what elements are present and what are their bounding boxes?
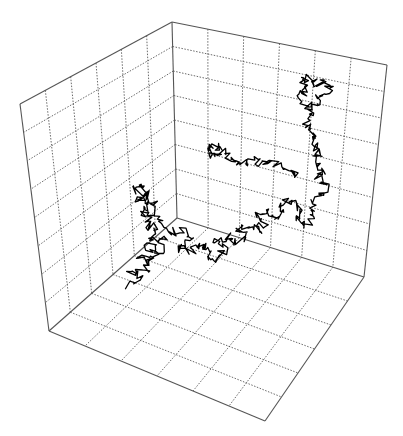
left-wall-top-edge [20,22,172,104]
random-walk-line [126,75,334,289]
floor-left-back-edge [49,218,177,331]
floor-grid-vline [229,267,333,406]
left-wall-grid-vline [71,77,92,294]
3d-random-walk-plot [0,0,403,436]
left-wall-grid-hline [42,169,176,274]
right-wall-outer-edge [364,65,387,277]
floor-grid-vline [193,257,302,391]
right-wall-grid-hline [175,145,373,198]
random-walk-path-branch [208,144,298,178]
right-wall-grid [173,29,385,267]
floor-left-front-edge [49,331,265,421]
left-wall-grid-hline [45,194,176,303]
floor-right-front-edge [265,277,364,421]
left-wall-grid-hline [31,96,174,190]
left-wall-grid-vline [121,49,134,255]
left-wall-outer-edge [20,104,49,331]
left-wall-grid [24,36,177,313]
right-wall-grid-hline [173,47,385,92]
floor-grid-vline [121,238,239,361]
back-corner-edge [172,22,177,218]
right-wall-grid-vline [333,58,351,267]
floor-grid-vline [157,248,271,377]
random-walk-path [126,75,334,289]
box-edges [20,22,387,421]
right-wall-top-edge [172,22,387,65]
right-wall-grid-hline [174,96,379,145]
